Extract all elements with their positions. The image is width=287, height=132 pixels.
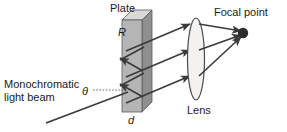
beam-label-line-1: Monochromatic bbox=[4, 78, 79, 91]
converging-ray bbox=[199, 24, 241, 31]
lens-label: Lens bbox=[187, 104, 211, 116]
plate-side-face bbox=[142, 10, 152, 112]
optics-diagram-figure: Plate Focal point Lens R d θ Monochromat… bbox=[0, 0, 287, 132]
lens-shape bbox=[188, 18, 205, 100]
plate-thickness-label: d bbox=[128, 114, 134, 126]
monochromatic-light-beam-label: Monochromatic light beam bbox=[4, 78, 79, 104]
focal-point-dot bbox=[238, 28, 248, 38]
diagram-canvas bbox=[0, 0, 287, 132]
beam-label-line-2: light beam bbox=[4, 91, 79, 104]
converging-rays bbox=[199, 24, 241, 76]
plate-reflectivity-label: R bbox=[118, 26, 126, 38]
focal-point-label: Focal point bbox=[214, 6, 268, 18]
incidence-angle-label: θ bbox=[82, 85, 88, 97]
plate-label: Plate bbox=[110, 2, 135, 14]
